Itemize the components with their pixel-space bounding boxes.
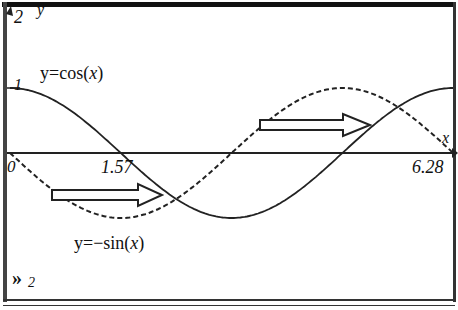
- x-tick-label-6-28: 6.28: [412, 158, 444, 176]
- y-tick-label-1: 1: [14, 77, 22, 93]
- shift-arrow-icon-lower: [52, 184, 162, 206]
- y-axis-label: y: [37, 2, 44, 18]
- x-tick-label-1-57: 1.57: [101, 158, 133, 176]
- shift-arrow-icon-upper: [260, 114, 370, 136]
- sin-equation-label: y=−sin(x): [74, 234, 144, 252]
- y-axis-arrow-icon: [6, 6, 13, 16]
- entry-line-index[interactable]: 2: [28, 276, 35, 290]
- plot-area: [0, 0, 458, 310]
- x-axis-arrow-icon: [452, 148, 458, 158]
- x-axis-label: x: [442, 130, 449, 146]
- y-max-label: 2: [14, 8, 23, 26]
- cos-equation-label: y=cos(x): [40, 64, 103, 82]
- entry-line-expand-icon[interactable]: »: [12, 268, 22, 288]
- x-tick-label-0: 0: [7, 158, 16, 175]
